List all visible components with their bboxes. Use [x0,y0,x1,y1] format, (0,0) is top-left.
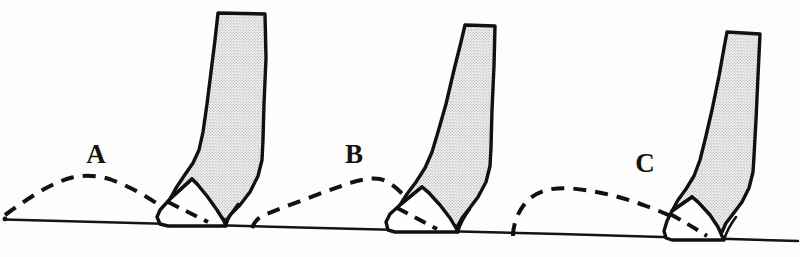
panel-label-c: C [635,148,655,178]
ground-line-left-endpoint-dot [3,217,8,222]
panel-label-a: A [86,139,106,169]
panel-b: B [252,25,495,232]
figure-canvas: A B [0,0,800,257]
panel-c: C [513,32,760,240]
panel-label-b: B [345,139,363,169]
figure-container: A B [0,0,800,257]
panel-a: A [5,13,266,227]
